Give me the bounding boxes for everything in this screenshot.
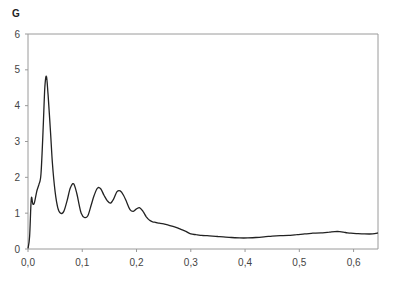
line-chart: G 0123456 0,00,10,20,30,40,50,6 bbox=[0, 0, 393, 281]
y-tick-label: 6 bbox=[14, 29, 20, 40]
x-tick-label: 0,6 bbox=[347, 257, 361, 268]
x-tick-label: 0,2 bbox=[130, 257, 144, 268]
y-tick-label: 1 bbox=[14, 208, 20, 219]
plot-frame bbox=[28, 34, 378, 249]
y-axis-ticks: 0123456 bbox=[14, 29, 28, 255]
x-tick-label: 0,1 bbox=[75, 257, 89, 268]
y-tick-label: 2 bbox=[14, 172, 20, 183]
x-tick-label: 0,0 bbox=[21, 257, 35, 268]
y-tick-label: 5 bbox=[14, 64, 20, 75]
x-tick-label: 0,5 bbox=[292, 257, 306, 268]
y-tick-label: 4 bbox=[14, 100, 20, 111]
series-line-g bbox=[28, 76, 378, 248]
x-tick-label: 0,4 bbox=[238, 257, 252, 268]
y-tick-label: 3 bbox=[14, 136, 20, 147]
y-tick-label: 0 bbox=[14, 244, 20, 255]
plot-axes bbox=[28, 34, 378, 249]
x-tick-label: 0,3 bbox=[184, 257, 198, 268]
y-axis-title: G bbox=[12, 8, 20, 19]
x-axis-ticks: 0,00,10,20,30,40,50,6 bbox=[21, 249, 361, 268]
